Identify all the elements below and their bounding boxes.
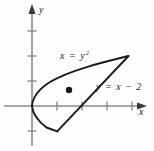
y-axis-label: y [39,5,44,15]
line-curve [57,56,128,131]
parabola-equation-label: x = y2 [60,51,89,61]
coordinate-plane-svg [0,0,154,151]
parabola-equation-exponent: 2 [86,49,90,56]
parabola-equation-base: x = y [60,50,86,61]
parabola-curve [32,56,129,131]
y-axis-arrowhead [28,4,35,14]
math-figure: x y x = y2 y = x − 2 [0,0,154,151]
interior-point [66,87,72,93]
line-equation-label: y = x − 2 [96,82,142,92]
x-axis-label: x [139,107,144,117]
